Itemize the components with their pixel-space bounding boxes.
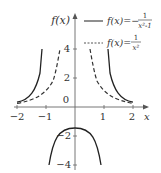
x-axis-arrow-icon (143, 105, 149, 110)
y-axis-label: f(x) (50, 14, 70, 27)
svg-text:x²-1: x²-1 (138, 22, 152, 30)
x-axis-label: x (144, 111, 150, 122)
svg-text:1: 1 (143, 12, 147, 20)
function-plot: −2 −1 1 2 x 0 4 2 −2 −4 f(x) f(x)=− 1 x²… (0, 0, 161, 173)
svg-text:1: 1 (134, 34, 138, 42)
legend-solid-label: f(x)=− (106, 15, 139, 26)
origin-label: 0 (63, 94, 69, 105)
x-tick-label: 1 (100, 111, 106, 122)
svg-text:x²: x² (133, 44, 140, 52)
legend: f(x)=− 1 x²-1 f(x)= 1 x² (84, 12, 152, 52)
x-tick-label: −1 (38, 111, 53, 122)
legend-dashed-label: f(x)= (106, 37, 131, 48)
y-tick-label: 4 (64, 43, 70, 54)
y-tick-label: −4 (56, 159, 71, 170)
x-tick-label: −2 (10, 111, 25, 122)
y-axis-arrow-icon (73, 13, 78, 19)
x-tick-label: 2 (129, 111, 135, 122)
y-tick-label: 2 (64, 72, 70, 83)
